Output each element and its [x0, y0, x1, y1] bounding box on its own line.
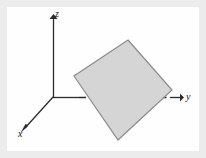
y-axis-label: y — [186, 92, 190, 102]
coordinate-diagram — [0, 0, 206, 158]
z-axis-label: z — [55, 9, 59, 19]
x-axis-label: x — [18, 129, 22, 139]
figure-root: z y x — [0, 0, 206, 158]
x-axis-line — [25, 97, 53, 128]
y-axis-arrowhead — [180, 94, 184, 102]
shaded-plane — [74, 40, 172, 140]
